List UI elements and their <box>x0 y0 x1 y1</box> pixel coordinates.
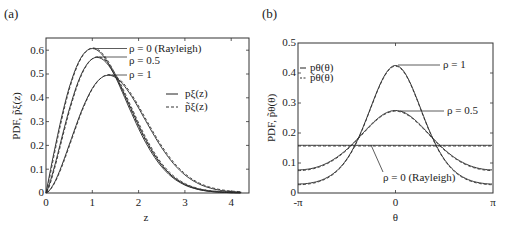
y-tick-label: 0.1 <box>282 156 296 168</box>
panel-b-label: (b) <box>262 6 277 21</box>
annotation-rho-1: ρ = 1 <box>443 58 466 70</box>
x-tick-label: 4 <box>228 196 234 208</box>
panel-a-x-axis-label: z <box>144 211 149 223</box>
x-tick-label: 2 <box>136 196 142 208</box>
panel-a-label: (a) <box>4 6 18 21</box>
y-tick-label: 0.4 <box>30 91 44 103</box>
panel-b-y-axis-label: PDF, p̃θ(θ) <box>265 94 278 142</box>
legend-entry-dashed: p̃θ(θ) <box>310 71 334 84</box>
panel-a-y-ticks: 0 0.1 0.2 0.3 0.4 0.5 0.6 <box>30 44 249 199</box>
legend-entry-dashed: p̃ξ(z) <box>185 100 208 113</box>
panel-a: (a) 0 0.1 0.2 0.3 0.4 0.5 0.6 <box>4 6 249 223</box>
y-tick-label: 0.5 <box>30 67 44 79</box>
y-tick-label: 0.3 <box>30 115 44 127</box>
figure: (a) 0 0.1 0.2 0.3 0.4 0.5 0.6 <box>0 0 511 234</box>
panel-b-legend: pθ(θ) p̃θ(θ) <box>300 61 334 84</box>
y-tick-label: 0.4 <box>282 66 296 78</box>
curve <box>47 75 242 193</box>
y-tick-label: 0.5 <box>282 36 296 48</box>
legend-entry-solid: pξ(z) <box>185 87 208 100</box>
x-tick-label: 3 <box>182 196 188 208</box>
y-tick-label: 0.2 <box>282 126 296 138</box>
curve <box>298 66 492 185</box>
panel-b-x-axis-label: θ <box>393 211 398 223</box>
annotation-rho-0-5: ρ = 0.5 <box>129 54 160 66</box>
y-tick-label: 0.1 <box>30 163 44 175</box>
annotation-rho-0-rayleigh: ρ = 0 (Rayleigh) <box>383 171 456 184</box>
x-tick-label: 1 <box>90 196 96 208</box>
annotation-rho-0-5: ρ = 0.5 <box>447 104 478 116</box>
x-tick-label: 0 <box>393 196 399 208</box>
curve <box>298 111 492 170</box>
panel-a-y-axis-label: PDF, p̃ξ(z) <box>10 92 23 140</box>
x-tick-label: -π <box>293 196 303 208</box>
curve <box>298 111 492 170</box>
y-tick-label: 0.2 <box>30 139 44 151</box>
annotation-rho-1: ρ = 1 <box>129 68 152 80</box>
curve <box>298 66 492 185</box>
x-tick-label: 0 <box>43 196 49 208</box>
panel-a-legend: pξ(z) p̃ξ(z) <box>166 87 208 113</box>
y-tick-label: 0.3 <box>282 96 296 108</box>
panel-b: (b) 0 0.1 0.2 0.3 0.4 0.5 -π 0 π θ PDF, <box>262 6 496 223</box>
panel-b-curves <box>298 66 492 185</box>
x-tick-label: π <box>490 196 496 208</box>
y-tick-label: 0.6 <box>30 44 44 56</box>
